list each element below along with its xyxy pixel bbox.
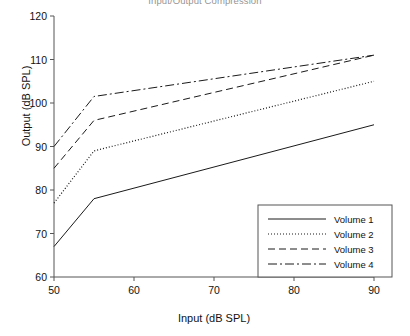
- x-tick-label: 60: [128, 284, 140, 296]
- legend-label: Volume 4: [334, 259, 374, 270]
- chart-figure: Input/Output Compression Output (dB SPL)…: [0, 0, 410, 336]
- series-line: [54, 81, 374, 203]
- x-tick-label: 80: [288, 284, 300, 296]
- y-tick-label: 70: [35, 228, 47, 240]
- plot-area: 607080901001101205060708090 Volume 1Volu…: [0, 0, 410, 336]
- y-tick-label: 120: [29, 10, 47, 22]
- legend: Volume 1Volume 2Volume 3Volume 4: [258, 205, 392, 277]
- x-tick-label: 70: [208, 284, 220, 296]
- legend-label: Volume 1: [334, 214, 374, 225]
- legend-label: Volume 3: [334, 244, 374, 255]
- series-line: [54, 55, 374, 168]
- legend-label: Volume 2: [334, 229, 374, 240]
- series-line: [54, 55, 374, 146]
- y-tick-label: 60: [35, 271, 47, 283]
- y-tick-label: 90: [35, 141, 47, 153]
- x-tick-label: 50: [48, 284, 60, 296]
- y-tick-label: 100: [29, 97, 47, 109]
- y-tick-label: 110: [30, 54, 47, 66]
- y-tick-label: 80: [35, 184, 47, 196]
- x-tick-label: 90: [368, 284, 380, 296]
